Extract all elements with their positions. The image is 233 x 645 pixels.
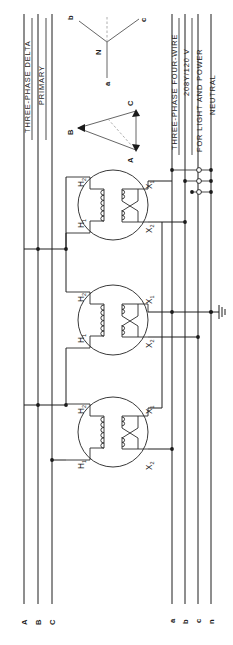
junction-dot-n1 bbox=[209, 168, 213, 172]
delta-vector-diagram: B C A bbox=[66, 100, 140, 163]
secondary-bus-labels: a b c n bbox=[168, 618, 216, 624]
secondary-side-titles: THREE-PHASE FOUR-WIRE 208Y/120 V FOR LIG… bbox=[170, 34, 217, 152]
t2-busB-junction bbox=[36, 403, 40, 407]
title-primary: PRIMARY bbox=[37, 65, 46, 105]
delta-label-C: C bbox=[126, 100, 135, 106]
title-208y-120v: 208Y/120 V bbox=[182, 48, 191, 96]
transformer-1-primary-turns bbox=[101, 190, 104, 221]
delta-label-B: B bbox=[66, 129, 75, 135]
bus-label-A: A bbox=[20, 619, 29, 625]
transformer-2-label-H2: H2 bbox=[77, 293, 87, 302]
transformer-1: H2 H1 X1 X2 bbox=[66, 170, 155, 240]
wiring-diagram: THREE-PHASE DELTA PRIMARY THREE-PHASE FO… bbox=[0, 0, 233, 645]
delta-arrow-B bbox=[77, 124, 85, 132]
wye-leg-b bbox=[79, 21, 107, 42]
transformer-3-case bbox=[78, 397, 148, 467]
t1-X2-junction bbox=[183, 220, 187, 224]
transformer-3-label-X2: X2 bbox=[145, 462, 155, 470]
primary-side-titles: THREE-PHASE DELTA PRIMARY bbox=[23, 40, 46, 133]
crossover-circle-1 bbox=[197, 168, 202, 173]
bus-label-n: n bbox=[207, 619, 216, 624]
t1-H2-to-busA bbox=[24, 177, 66, 249]
diagram-canvas: THREE-PHASE DELTA PRIMARY THREE-PHASE FO… bbox=[0, 0, 233, 645]
wye-leg-c bbox=[107, 19, 139, 42]
transformer-2-label-X2: X2 bbox=[145, 340, 155, 348]
transformer-2-label-X1: X1 bbox=[145, 296, 155, 304]
transformer-2-primary-turns bbox=[101, 305, 104, 336]
transformer-3-label-H1: H1 bbox=[77, 460, 87, 469]
t1-busB-junction bbox=[36, 247, 40, 251]
wye-label-c: c bbox=[139, 18, 148, 22]
bus-label-a: a bbox=[168, 618, 177, 623]
delta-arrow-C bbox=[132, 109, 140, 117]
transformer-2-label-H1: H1 bbox=[77, 334, 87, 343]
junction-dot-n2 bbox=[209, 179, 213, 183]
transformer-2-secondary-winding bbox=[122, 304, 148, 337]
bus-label-c: c bbox=[194, 619, 203, 623]
title-three-phase-delta: THREE-PHASE DELTA bbox=[23, 40, 32, 133]
wye-label-N: N bbox=[94, 50, 103, 55]
transformer-3-external-wiring bbox=[50, 222, 174, 462]
junction-dot-n3 bbox=[209, 190, 213, 194]
bus-label-B: B bbox=[34, 619, 43, 625]
junction-dot-tap1 bbox=[170, 168, 174, 172]
transformer-3-label-X1: X1 bbox=[145, 406, 155, 414]
delta-arrow-A bbox=[132, 144, 140, 152]
title-for-light-and-power: FOR LIGHT AND POWER bbox=[195, 48, 204, 152]
t3-X2-junction bbox=[170, 447, 174, 451]
junction-dot-tap2 bbox=[183, 179, 187, 183]
transformer-3-primary-turns bbox=[101, 417, 104, 448]
bus-label-b: b bbox=[181, 619, 190, 624]
transformer-1-label-H1: H1 bbox=[77, 219, 87, 228]
transformer-2-case bbox=[78, 285, 148, 355]
transformer-3: H2 H1 X1 X2 bbox=[66, 397, 155, 470]
secondary-tap-cluster bbox=[170, 168, 213, 195]
t3-busC-junction bbox=[50, 458, 54, 462]
wye-label-a: a bbox=[103, 81, 112, 86]
transformer-3-H1-lead bbox=[66, 448, 104, 460]
crossover-circle-2 bbox=[197, 179, 202, 184]
delta-side-AB bbox=[78, 128, 136, 150]
title-neutral: NEUTRAL bbox=[208, 74, 217, 115]
bus-label-C: C bbox=[48, 619, 57, 625]
transformer-3-label-H2: H2 bbox=[77, 405, 87, 414]
t2-X2-junction-c bbox=[196, 335, 200, 339]
delta-label-A: A bbox=[126, 157, 135, 163]
junction-dot-tap3 bbox=[190, 190, 194, 194]
transformer-1-label-H2: H2 bbox=[77, 178, 87, 187]
t3-X1-riser bbox=[148, 222, 162, 408]
t2-X1-junction-a bbox=[170, 310, 174, 314]
delta-reference-axis bbox=[108, 119, 132, 146]
transformer-1-case bbox=[78, 170, 148, 240]
crossover-circle-3 bbox=[197, 190, 202, 195]
primary-bus-labels: A B C bbox=[20, 619, 57, 625]
wye-label-b: b bbox=[66, 15, 75, 20]
wye-vector-diagram: b c a N bbox=[66, 15, 148, 86]
transformer-1-label-X2: X2 bbox=[145, 225, 155, 233]
delta-side-BC bbox=[78, 111, 136, 128]
t2-H1-to-busA bbox=[24, 348, 66, 405]
title-three-phase-four-wire: THREE-PHASE FOUR-WIRE bbox=[170, 34, 179, 150]
transformer-1-label-X1: X1 bbox=[145, 181, 155, 189]
transformer-2: H2 H1 X1 X2 bbox=[66, 285, 155, 355]
